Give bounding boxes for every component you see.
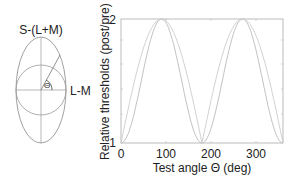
color-space-diagram: S-(L+M) L-M Θ bbox=[16, 23, 91, 143]
x-tick-200: 200 bbox=[201, 147, 221, 161]
plot-frame bbox=[121, 19, 283, 143]
curve-2 bbox=[121, 19, 283, 143]
x-tick-100: 100 bbox=[156, 147, 176, 161]
theta-label: Θ bbox=[44, 81, 50, 90]
ticks bbox=[121, 19, 283, 143]
l-m-label: L-M bbox=[70, 84, 91, 98]
s-lm-label: S-(L+M) bbox=[19, 23, 63, 37]
x-axis-label: Test angle Θ (deg) bbox=[153, 161, 252, 175]
x-tick-300: 300 bbox=[246, 147, 266, 161]
x-tick-0: 0 bbox=[118, 147, 125, 161]
y-tick-2: 2 bbox=[109, 13, 116, 27]
curve-1 bbox=[121, 19, 283, 143]
y-tick-1: 1 bbox=[109, 136, 116, 150]
figure: S-(L+M) L-M Θ Relative thresholds (post/… bbox=[0, 0, 295, 183]
